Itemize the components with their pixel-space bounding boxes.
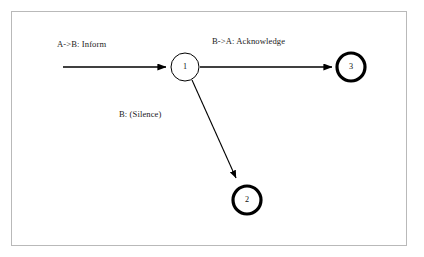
edge-label-acknowledge: B->A: Acknowledge — [212, 37, 285, 46]
diagram-canvas: 1 2 3 A->B: Inform B->A: Acknowledge B: … — [0, 0, 424, 257]
edge-label-silence: B: (Silence) — [119, 110, 162, 119]
node-2-label: 2 — [245, 196, 249, 204]
node-3-label: 3 — [349, 63, 353, 71]
edge-1-to-2 — [192, 80, 236, 178]
edge-label-inform: A->B: Inform — [57, 40, 106, 49]
node-1-label: 1 — [183, 63, 187, 71]
